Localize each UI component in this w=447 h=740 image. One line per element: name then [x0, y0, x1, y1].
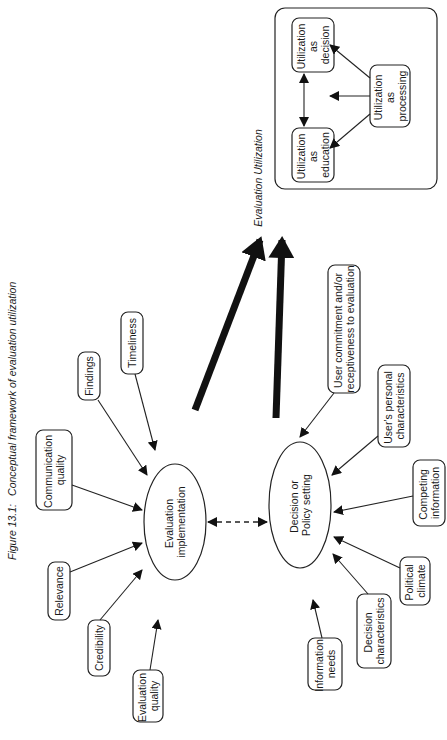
user-commitment-arrow	[300, 393, 334, 437]
utilization-title: Evaluation Utilization	[252, 129, 264, 227]
users-personal-characteristics-arrow	[332, 436, 378, 475]
information-needs-arrow	[313, 600, 322, 638]
factor-findings: Findings	[83, 356, 95, 396]
credibility-arrow	[100, 570, 142, 620]
diagram-canvas: Figure 13.1:Conceptual framework of eval…	[0, 0, 447, 740]
political-climate-arrow	[334, 537, 400, 568]
factor-credibility: Credibility	[93, 624, 105, 671]
factor-users-personal-characteristics: User's personal characteristics	[382, 368, 406, 444]
factor-timeliness: Timeliness	[126, 318, 138, 368]
relevance-arrow	[70, 543, 142, 572]
evaluation-implementation-label: Evaluation implementation	[163, 486, 187, 557]
factor-political-climate: Political climate	[403, 561, 427, 600]
findings-arrow	[98, 400, 147, 475]
figure-caption: Figure 13.1:Conceptual framework of eval…	[6, 282, 18, 560]
timeliness-arrow	[135, 374, 155, 450]
factor-relevance: Relevance	[53, 566, 65, 616]
evaluation-quality-arrow	[150, 620, 158, 670]
communication-quality-arrow	[72, 485, 142, 510]
decision-policy-setting-label: Decision or Policy setting	[288, 474, 312, 536]
competing-information-arrow	[334, 496, 413, 512]
factor-competing-information: Competing information	[417, 466, 441, 520]
evaluation-to-utilization-arrow	[195, 240, 260, 410]
evaluation-utilization-group: Evaluation Utilization Utilization as de…	[252, 8, 437, 227]
factor-user-commitment: User commitment and/or receptiveness to …	[332, 265, 356, 392]
decision-characteristics-arrow	[333, 554, 368, 594]
decision-to-utilization-arrow	[276, 240, 282, 418]
